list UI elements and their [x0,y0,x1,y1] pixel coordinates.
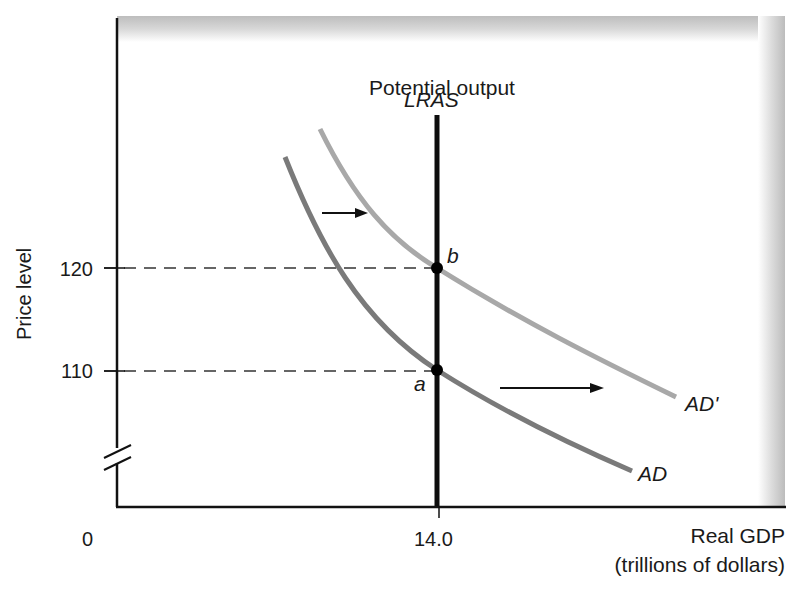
point-b-marker [431,262,443,274]
lras-label: LRAS [404,88,459,112]
point-a-label: a [414,372,426,396]
y-tick-label-120: 120 [33,258,93,281]
ad-prime-label: AD' [685,392,718,416]
shift-arrow-lower [500,383,604,393]
point-b-label: b [447,244,459,268]
x-tick-label-14: 14.0 [414,528,453,551]
x-axis-label: Real GDP [690,524,785,548]
ad-prime-curve [320,129,676,397]
origin-label: 0 [82,528,93,551]
shift-arrow-upper [322,208,368,218]
y-tick-label-110: 110 [33,360,93,383]
ad-curve [285,157,632,471]
ad-label: AD [638,462,667,486]
x-axis-units-label: (trillions of dollars) [615,553,785,577]
point-a-marker [431,364,443,376]
